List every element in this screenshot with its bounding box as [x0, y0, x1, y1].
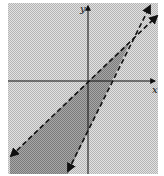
x-axis-label: x: [152, 84, 158, 95]
inequality-graph: x y: [0, 0, 164, 176]
y-axis-label: y: [79, 3, 86, 14]
